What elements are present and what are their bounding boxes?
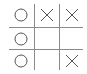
board-cell-r1c2[interactable] xyxy=(35,4,59,26)
board-cell-r1c1[interactable] xyxy=(9,4,33,26)
board-cell-r1c3[interactable] xyxy=(60,4,84,26)
x-mark-icon xyxy=(64,53,80,69)
o-mark-icon xyxy=(13,31,29,47)
board-cell-r3c1[interactable] xyxy=(9,50,33,72)
board-cell-r2c1[interactable] xyxy=(9,28,33,50)
board-cell-r2c3[interactable] xyxy=(60,28,84,50)
x-mark-icon xyxy=(64,7,80,23)
x-mark-icon xyxy=(39,7,55,23)
board-cell-r2c2[interactable] xyxy=(35,28,59,50)
board-cell-r3c2[interactable] xyxy=(35,50,59,72)
board-cell-r3c3[interactable] xyxy=(60,50,84,72)
tic-tac-toe-board xyxy=(9,4,83,70)
o-mark-icon xyxy=(13,7,29,23)
o-mark-icon xyxy=(13,53,29,69)
